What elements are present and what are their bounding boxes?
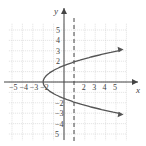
y-tick-label: 3: [56, 47, 60, 56]
y-tick-label: 5: [55, 130, 59, 139]
parabola-graph: y x −5−4−3−223455432−2−3−45: [0, 0, 146, 146]
y-axis-label: y: [53, 6, 58, 16]
y-tick-label: 2: [56, 57, 60, 66]
x-axis-label: x: [135, 85, 140, 95]
y-tick-label: −2: [55, 99, 64, 108]
arrowhead-icon: [118, 112, 124, 118]
x-tick-label: −3: [30, 83, 39, 92]
y-tick-label: 4: [56, 36, 60, 45]
x-tick-label: −2: [40, 83, 49, 92]
x-tick-label: 3: [92, 83, 96, 92]
axes: y x: [4, 6, 140, 140]
x-tick-label: −5: [9, 83, 18, 92]
x-tick-label: 4: [103, 83, 107, 92]
x-tick-label: 2: [82, 83, 86, 92]
y-tick-label: −3: [55, 109, 64, 118]
y-tick-label: 5: [56, 26, 60, 35]
y-tick-label: −4: [55, 120, 64, 129]
arrowhead-icon: [118, 47, 124, 53]
x-tick-label: 5: [113, 83, 117, 92]
x-tick-label: −4: [19, 83, 28, 92]
